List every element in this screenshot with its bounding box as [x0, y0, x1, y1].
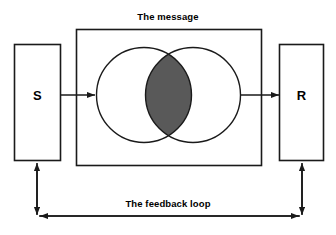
sender-box [15, 45, 61, 161]
message-title: The message [0, 11, 336, 22]
sender-label: S [14, 88, 61, 103]
receiver-label: R [279, 88, 324, 103]
receiver-box [280, 45, 324, 161]
feedback-loop-title: The feedback loop [0, 198, 336, 209]
diagram-canvas: The message The feedback loop S R [0, 0, 336, 235]
